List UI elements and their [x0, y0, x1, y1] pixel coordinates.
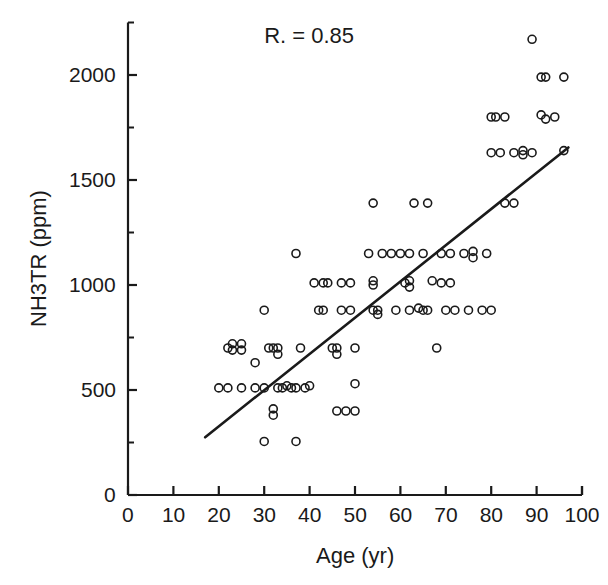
y-tick-label: 1000: [69, 273, 116, 297]
regression-line: [205, 147, 568, 437]
x-tick-label: 90: [525, 503, 548, 527]
data-point: [342, 407, 350, 415]
data-point: [483, 250, 491, 258]
data-point: [251, 359, 259, 367]
data-point: [437, 250, 445, 258]
data-point: [392, 306, 400, 314]
x-tick-label: 10: [162, 503, 185, 527]
data-point: [310, 279, 318, 287]
data-point: [487, 306, 495, 314]
data-point: [351, 344, 359, 352]
x-tick-label: 70: [434, 503, 457, 527]
correlation-annotation: R. = 0.85: [264, 23, 354, 49]
data-point: [351, 380, 359, 388]
y-tick-label: 1500: [69, 168, 116, 192]
data-point: [433, 344, 441, 352]
x-tick-label: 50: [344, 503, 367, 527]
x-tick-label: 100: [565, 503, 600, 527]
x-tick-label: 40: [298, 503, 321, 527]
data-point: [419, 250, 427, 258]
y-axis-title: NH3TR (ppm): [26, 190, 52, 327]
data-point: [369, 199, 377, 207]
regression-line-group: [205, 147, 568, 437]
data-point: [297, 344, 305, 352]
axes-group: [128, 23, 582, 496]
data-point: [333, 407, 341, 415]
data-point: [292, 250, 300, 258]
data-point: [501, 113, 509, 121]
data-point: [365, 250, 373, 258]
data-point: [224, 384, 232, 392]
data-point: [528, 35, 536, 43]
data-point: [260, 437, 268, 445]
data-point: [478, 306, 486, 314]
data-point: [387, 250, 395, 258]
data-point: [501, 199, 509, 207]
data-point: [337, 279, 345, 287]
data-point: [446, 279, 454, 287]
data-point: [238, 384, 246, 392]
data-point: [215, 384, 223, 392]
data-point: [437, 279, 445, 287]
data-point: [510, 149, 518, 157]
data-point: [346, 279, 354, 287]
data-point: [378, 250, 386, 258]
x-tick-label: 80: [480, 503, 503, 527]
data-point: [410, 199, 418, 207]
data-point: [405, 250, 413, 258]
data-point: [424, 199, 432, 207]
x-tick-label: 0: [122, 503, 134, 527]
data-point: [528, 149, 536, 157]
data-point: [442, 306, 450, 314]
data-point: [496, 149, 504, 157]
x-tick-label: 30: [253, 503, 276, 527]
x-axis-title: Age (yr): [316, 543, 394, 569]
data-point: [510, 199, 518, 207]
data-point: [292, 437, 300, 445]
y-tick-label: 2000: [69, 63, 116, 87]
x-tick-label: 20: [207, 503, 230, 527]
data-point: [551, 113, 559, 121]
data-point: [337, 306, 345, 314]
y-tick-label: 0: [104, 483, 116, 507]
data-point: [260, 306, 268, 314]
data-point: [465, 306, 473, 314]
data-point: [446, 250, 454, 258]
data-point: [405, 306, 413, 314]
data-point: [251, 384, 259, 392]
data-points-group: [215, 35, 568, 445]
data-point: [460, 250, 468, 258]
x-tick-label: 60: [389, 503, 412, 527]
data-point: [396, 250, 404, 258]
data-point: [451, 306, 459, 314]
data-point: [560, 73, 568, 81]
scatter-plot-figure: Age (yr) NH3TR (ppm) R. = 0.85 010203040…: [0, 0, 608, 585]
data-point: [428, 277, 436, 285]
data-point: [487, 149, 495, 157]
data-point: [346, 306, 354, 314]
data-point: [351, 407, 359, 415]
y-tick-label: 500: [81, 378, 116, 402]
